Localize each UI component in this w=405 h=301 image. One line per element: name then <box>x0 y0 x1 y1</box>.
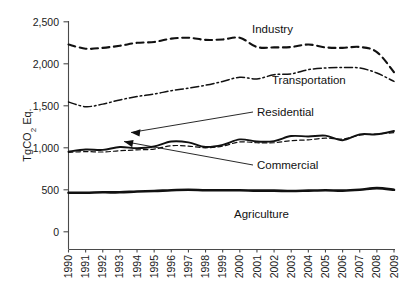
y-axis-title: TgCO2 Eq. <box>21 108 38 161</box>
svg-text:1993: 1993 <box>113 255 125 279</box>
x-tick-label-2003: 2003 <box>285 255 297 279</box>
y-tick-label-500: 500 <box>41 184 59 196</box>
svg-text:1999: 1999 <box>216 255 228 279</box>
x-tick-label-2007: 2007 <box>353 255 365 279</box>
y-tick-label-2500: 2,500 <box>33 16 59 28</box>
y-axis-title-post: Eq. <box>21 108 33 128</box>
svg-text:2005: 2005 <box>319 255 331 279</box>
chart-canvas: 2,500 2,000 1,500 1,000 500 0 TgCO2 Eq. … <box>0 0 405 301</box>
label-agriculture: Agriculture <box>234 208 289 220</box>
svg-text:2004: 2004 <box>302 255 314 279</box>
x-tick-label-1991: 1991 <box>79 255 91 279</box>
svg-text:2002: 2002 <box>268 255 280 279</box>
label-residential: Residential <box>257 106 314 118</box>
svg-text:2008: 2008 <box>370 255 382 279</box>
x-tick-label-1997: 1997 <box>182 255 194 279</box>
y-tick-label-2000: 2,000 <box>33 58 59 70</box>
y-tick-label-1000: 1,000 <box>33 142 59 154</box>
x-tick-label-1992: 1992 <box>96 255 108 279</box>
x-tick-label-1995: 1995 <box>148 255 160 279</box>
svg-text:2001: 2001 <box>251 255 263 279</box>
svg-text:2003: 2003 <box>285 255 297 279</box>
label-industry: Industry <box>252 23 293 35</box>
x-tick-label-2002: 2002 <box>268 255 280 279</box>
x-tick-label-1996: 1996 <box>165 255 177 279</box>
svg-text:1992: 1992 <box>96 255 108 279</box>
svg-text:1997: 1997 <box>182 255 194 279</box>
x-tick-label-2004: 2004 <box>302 255 314 279</box>
x-tick-label-1990: 1990 <box>62 255 74 279</box>
annotation-leaders <box>124 112 253 165</box>
svg-text:1991: 1991 <box>79 255 91 279</box>
svg-text:1998: 1998 <box>199 255 211 279</box>
x-axis-tick-labels: 1990199119921993199419951996199719981999… <box>62 250 400 279</box>
y-tick-label-1500: 1,500 <box>33 100 59 112</box>
x-tick-label-1994: 1994 <box>131 255 143 279</box>
svg-text:1990: 1990 <box>62 255 74 279</box>
svg-text:2000: 2000 <box>233 255 245 279</box>
svg-text:2007: 2007 <box>353 255 365 279</box>
x-tick-label-2006: 2006 <box>336 255 348 279</box>
x-tick-label-2009: 2009 <box>388 255 400 279</box>
series-line-agriculture <box>69 188 395 193</box>
svg-text:2006: 2006 <box>336 255 348 279</box>
commercial-arrowhead <box>124 140 134 147</box>
label-transportation: Transportation <box>272 74 346 86</box>
residential-leader-line <box>131 112 253 133</box>
svg-text:1995: 1995 <box>148 255 160 279</box>
emissions-line-chart: 2,500 2,000 1,500 1,000 500 0 TgCO2 Eq. … <box>0 0 405 301</box>
svg-text:1994: 1994 <box>131 255 143 279</box>
y-axis-ticks <box>64 22 69 232</box>
residential-arrowhead <box>131 129 141 136</box>
series-line-residential <box>69 131 395 152</box>
x-tick-label-2005: 2005 <box>319 255 331 279</box>
x-tick-label-1999: 1999 <box>216 255 228 279</box>
x-tick-label-2001: 2001 <box>251 255 263 279</box>
svg-text:1996: 1996 <box>165 255 177 279</box>
svg-text:TgCO2 Eq.: TgCO2 Eq. <box>21 108 38 161</box>
label-commercial: Commercial <box>257 159 318 171</box>
x-tick-label-2000: 2000 <box>233 255 245 279</box>
x-tick-label-2008: 2008 <box>370 255 382 279</box>
commercial-leader-line <box>124 142 253 166</box>
x-tick-label-1993: 1993 <box>113 255 125 279</box>
y-tick-label-0: 0 <box>53 226 59 238</box>
series-group <box>69 37 395 192</box>
svg-text:2009: 2009 <box>388 255 400 279</box>
x-tick-label-1998: 1998 <box>199 255 211 279</box>
y-axis-title-pre: TgCO <box>21 132 33 162</box>
y-axis-tick-labels: 2,500 2,000 1,500 1,000 500 0 <box>33 16 59 238</box>
